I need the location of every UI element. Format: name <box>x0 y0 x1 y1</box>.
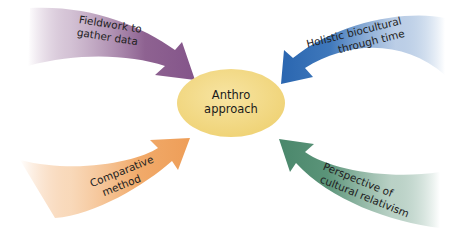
center-label-line1: Anthro <box>177 88 285 102</box>
center-label: Anthro approach <box>177 88 285 116</box>
center-label-line2: approach <box>177 102 285 116</box>
diagram-canvas: Anthro approach Fieldwork to gather data… <box>0 0 457 233</box>
